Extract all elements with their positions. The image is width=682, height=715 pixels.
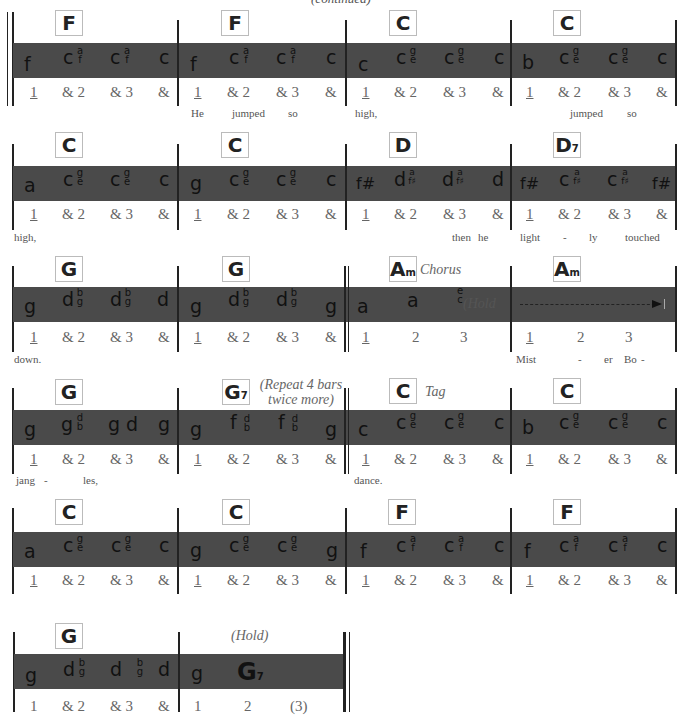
beat-count: & 3 — [608, 451, 631, 468]
note-stack: af♯ — [572, 168, 582, 186]
strum-note: c — [110, 48, 120, 67]
hold-end-tick — [664, 299, 665, 309]
beat-count: & 3 — [276, 206, 299, 223]
beat-count: 1 — [194, 84, 202, 101]
strum-note: c — [657, 413, 667, 432]
barline — [178, 632, 180, 712]
beat-count: 1 — [526, 84, 534, 101]
barline — [345, 144, 347, 230]
barline — [675, 508, 677, 594]
final-barline-thick — [343, 632, 346, 712]
beat-count: & 3 — [608, 572, 631, 589]
beat-count: 1 — [30, 451, 38, 468]
beat-count: & 2 — [62, 698, 85, 715]
note-stack: bg — [289, 288, 299, 306]
note-stack: bg — [123, 288, 133, 306]
beat-count: 2 — [244, 698, 252, 715]
beat-count: & — [325, 451, 337, 468]
note-stack: af — [456, 534, 466, 552]
repeat-instruction: (Repeat 4 barstwice more) — [256, 377, 346, 407]
note-stack: bg — [135, 658, 145, 676]
note-stack: ge — [241, 534, 251, 552]
lyric: so — [288, 107, 298, 119]
note-stack: ge — [571, 411, 581, 429]
lyric: down. — [14, 353, 41, 365]
note-stack: ge — [620, 411, 630, 429]
beat-count: 1 — [526, 206, 534, 223]
beat-count: & 2 — [62, 84, 85, 101]
beat-count: 1 — [30, 329, 38, 346]
strum-note: c — [657, 48, 667, 67]
bass-note: b — [522, 53, 534, 72]
beat-count: & 2 — [62, 206, 85, 223]
note-stack: af — [620, 534, 630, 552]
note-stack: ge — [408, 411, 418, 429]
chord-symbol: C — [553, 10, 581, 36]
lyric: - — [578, 353, 582, 365]
strum-note: c — [229, 536, 239, 555]
bass-note: f# — [520, 176, 539, 192]
beat-count: 1 — [362, 84, 370, 101]
barline — [345, 508, 347, 594]
lyric: jumped — [570, 107, 603, 119]
strum-note: g — [325, 297, 337, 316]
strum-note: f# — [652, 176, 671, 192]
note-stack: ge — [241, 168, 251, 186]
beat-count: 1 — [362, 329, 370, 346]
barline — [510, 266, 512, 352]
strum-note: f — [230, 413, 237, 432]
barline — [177, 508, 179, 594]
chord-symbol: G — [55, 623, 83, 649]
beat-count: & 2 — [62, 329, 85, 346]
section-label-chorus: Chorus — [420, 262, 461, 277]
chord-symbol: G — [55, 379, 83, 405]
beat-count: & 2 — [62, 572, 85, 589]
beat-count: & 2 — [227, 84, 250, 101]
strum-note: c — [444, 413, 454, 432]
note-stack: ge — [456, 411, 466, 429]
strum-note: g — [326, 541, 338, 560]
beat-count: & — [325, 572, 337, 589]
chord-symbol: C — [389, 10, 417, 36]
note-stack: ge — [75, 534, 85, 552]
beat-count: & 3 — [443, 84, 466, 101]
strum-note: c — [326, 170, 336, 189]
beat-count: & 3 — [110, 329, 133, 346]
beat-count: & 3 — [110, 698, 133, 715]
beat-count: & — [158, 572, 170, 589]
strum-note: c — [607, 170, 617, 189]
strum-note: f — [278, 413, 285, 432]
strum-note: c — [396, 413, 406, 432]
beat-count: & 2 — [558, 84, 581, 101]
note-stack: af — [571, 534, 581, 552]
bass-note: f — [360, 542, 367, 561]
beat-count: & — [158, 451, 170, 468]
strum-note: c — [396, 536, 406, 555]
bass-note: f# — [356, 176, 375, 192]
note-stack: af♯ — [407, 168, 417, 186]
chord-symbol: C — [553, 378, 581, 404]
note-stack: af — [408, 534, 418, 552]
strum-note: c — [608, 48, 618, 67]
strum-note: d — [228, 290, 240, 309]
strum-note: c — [559, 536, 569, 555]
strum-note: c — [111, 536, 121, 555]
lyric: les, — [83, 474, 98, 486]
barline — [675, 388, 677, 474]
barline — [510, 388, 512, 474]
note-stack: db — [242, 414, 252, 432]
note-stack: af — [241, 46, 251, 64]
beat-count: & — [492, 206, 504, 223]
strum-note: g — [61, 415, 73, 434]
strum-note: c — [159, 536, 169, 555]
strum-note: c — [444, 48, 454, 67]
beat-count: & 3 — [110, 572, 133, 589]
strum-note: c — [326, 48, 336, 67]
barline — [345, 20, 347, 106]
bass-note: a — [357, 297, 369, 316]
beat-count: & — [325, 206, 337, 223]
strum-note: c — [657, 536, 667, 555]
beat-count: & 3 — [110, 84, 133, 101]
bass-note: g — [190, 297, 202, 316]
chord-symbol: F — [221, 10, 249, 36]
